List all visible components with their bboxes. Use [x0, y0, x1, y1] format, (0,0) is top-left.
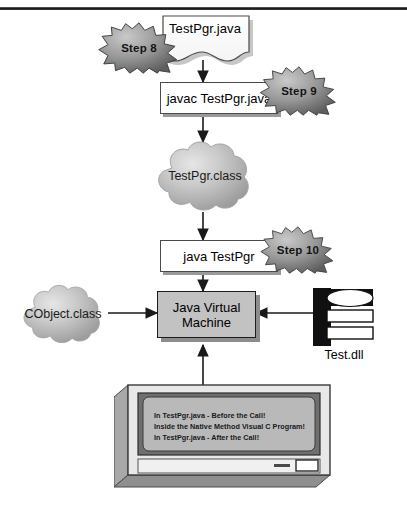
node-cobject-class: CObject.class: [12, 282, 114, 346]
step-10-label: Step 10: [258, 244, 338, 256]
run-command-label: java TestPgr: [183, 249, 254, 264]
node-jvm: Java Virtual Machine: [157, 291, 256, 338]
native-library-label: Test.dll: [313, 348, 375, 362]
badge-step-10: Step 10: [258, 226, 338, 274]
jvm-label-line-1: Java Virtual: [173, 300, 241, 315]
badge-step-9: Step 9: [258, 66, 340, 116]
compile-command-label: javac TestPgr.java: [167, 91, 272, 106]
class-file-label: TestPgr.class: [146, 169, 264, 183]
console-monitor: In TestPgr.java - Before the Call! Insid…: [114, 383, 342, 493]
jvm-label-line-2: Machine: [182, 315, 231, 330]
step-9-label: Step 9: [258, 85, 340, 97]
console-line-2: Inside the Native Method Visual C Progra…: [154, 421, 322, 432]
console-line-1: In TestPgr.java - Before the Call!: [154, 410, 322, 421]
node-class-file: TestPgr.class: [146, 138, 264, 214]
console-output: In TestPgr.java - Before the Call! Insid…: [154, 410, 322, 444]
cobject-class-label: CObject.class: [12, 307, 114, 321]
diagram-canvas: TestPgr.java Step 8 javac TestPgr.java S…: [0, 0, 407, 505]
badge-step-8: Step 8: [96, 22, 182, 74]
node-native-library: Test.dll: [313, 288, 375, 360]
step-8-label: Step 8: [96, 42, 182, 54]
console-line-3: In TestPgr.java - After the Call!: [154, 432, 322, 443]
